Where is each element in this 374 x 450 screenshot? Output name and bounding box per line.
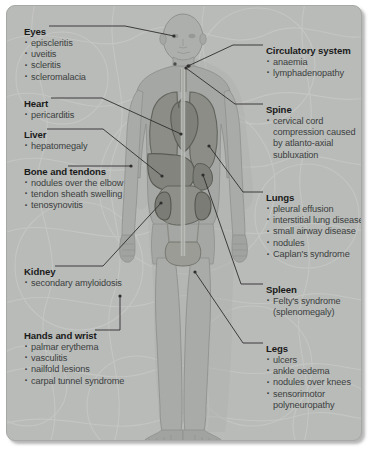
list-item: scleromalacia bbox=[24, 72, 132, 83]
callout-legs: Legs ulcers ankle oedema nodules over kn… bbox=[266, 343, 362, 412]
callout-circulatory-system-list: anaemia lymphadenopathy bbox=[266, 57, 362, 80]
callout-eyes-list: episcleritis uveitis scleritis scleromal… bbox=[24, 38, 132, 84]
diagram-root: Eyes episcleritis uveitis scleritis scle… bbox=[0, 0, 374, 450]
list-item: Felty's syndrome (splenomegaly) bbox=[266, 296, 362, 319]
list-item: pericarditis bbox=[24, 110, 132, 121]
callout-spine-list: cervical cord compression caused by atla… bbox=[266, 116, 362, 162]
list-item: pleural effusion bbox=[266, 204, 362, 215]
list-item: lymphadenopathy bbox=[266, 68, 362, 79]
list-item: secondary amyloidosis bbox=[24, 278, 128, 289]
callout-spine-title: Spine bbox=[266, 104, 362, 116]
callout-spleen-title: Spleen bbox=[266, 284, 362, 296]
list-item: interstitial lung disease bbox=[266, 215, 362, 226]
list-item: episcleritis bbox=[24, 38, 132, 49]
callout-kidney: Kidney secondary amyloidosis bbox=[24, 266, 128, 289]
callout-bone-and-tendons: Bone and tendons nodules over the elbow … bbox=[24, 166, 128, 212]
callout-hands-and-wrist-list: palmar erythema vasculitis nailfold lesi… bbox=[24, 342, 169, 388]
callout-legs-title: Legs bbox=[266, 343, 362, 355]
callout-spine: Spine cervical cord compression caused b… bbox=[266, 104, 362, 161]
callout-bone-and-tendons-title: Bone and tendons bbox=[24, 166, 128, 178]
list-item: ulcers bbox=[266, 355, 362, 366]
list-item: palmar erythema bbox=[24, 342, 169, 353]
callout-legs-list: ulcers ankle oedema nodules over knees s… bbox=[266, 355, 362, 412]
list-item: cervical cord compression caused by atla… bbox=[266, 116, 362, 162]
list-item: hepatomegaly bbox=[24, 141, 132, 152]
callout-eyes: Eyes episcleritis uveitis scleritis scle… bbox=[24, 26, 132, 83]
callout-heart-title: Heart bbox=[24, 98, 132, 110]
list-item: nodules over the elbow bbox=[24, 178, 128, 189]
callout-liver-title: Liver bbox=[24, 129, 132, 141]
callout-circulatory-system-title: Circulatory system bbox=[266, 45, 362, 57]
callout-hands-and-wrist: Hands and wrist palmar erythema vasculit… bbox=[24, 330, 169, 387]
list-item: Caplan's syndrome bbox=[266, 249, 362, 260]
callout-lungs: Lungs pleural effusion interstitial lung… bbox=[266, 192, 362, 261]
list-item: nailfold lesions bbox=[24, 364, 169, 375]
list-item: nodules bbox=[266, 238, 362, 249]
callout-lungs-title: Lungs bbox=[266, 192, 362, 204]
list-item: vasculitis bbox=[24, 353, 169, 364]
callout-liver: Liver hepatomegaly bbox=[24, 129, 132, 152]
callout-heart: Heart pericarditis bbox=[24, 98, 132, 121]
diagram-panel: Eyes episcleritis uveitis scleritis scle… bbox=[6, 5, 362, 441]
list-item: ankle oedema bbox=[266, 366, 362, 377]
callout-kidney-title: Kidney bbox=[24, 266, 128, 278]
list-item: scleritis bbox=[24, 60, 132, 71]
callout-spleen-list: Felty's syndrome (splenomegaly) bbox=[266, 296, 362, 319]
callout-spleen: Spleen Felty's syndrome (splenomegaly) bbox=[266, 284, 362, 318]
list-item: carpal tunnel syndrome bbox=[24, 376, 169, 387]
callout-hands-and-wrist-title: Hands and wrist bbox=[24, 330, 169, 342]
callout-heart-list: pericarditis bbox=[24, 110, 132, 121]
callout-kidney-list: secondary amyloidosis bbox=[24, 278, 128, 289]
list-item: uveitis bbox=[24, 49, 132, 60]
list-item: anaemia bbox=[266, 57, 362, 68]
callout-liver-list: hepatomegaly bbox=[24, 141, 132, 152]
callout-lungs-list: pleural effusion interstitial lung disea… bbox=[266, 204, 362, 261]
list-item: tenosynovitis bbox=[24, 200, 128, 211]
list-item: nodules over knees bbox=[266, 377, 362, 388]
callout-circulatory-system: Circulatory system anaemia lymphadenopat… bbox=[266, 45, 362, 79]
list-item: small airway disease bbox=[266, 226, 362, 237]
callout-bone-and-tendons-list: nodules over the elbow tendon sheath swe… bbox=[24, 178, 128, 212]
callout-eyes-title: Eyes bbox=[24, 26, 132, 38]
list-item: tendon sheath swelling bbox=[24, 189, 128, 200]
list-item: sensorimotor polyneuropathy bbox=[266, 389, 362, 412]
